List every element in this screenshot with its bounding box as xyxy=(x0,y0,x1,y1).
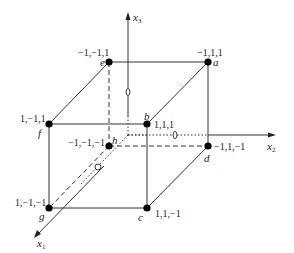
x1-axis-label: x1 xyxy=(37,238,45,251)
x3-marker-icon xyxy=(126,89,130,96)
vertex-f xyxy=(45,120,52,127)
edge-h-g xyxy=(52,146,109,205)
x1-sub: 1 xyxy=(42,243,46,251)
x2-marker-icon xyxy=(173,132,177,139)
vertex-d xyxy=(204,142,211,149)
vertex-b-letter: b xyxy=(144,111,150,122)
vertex-f-letter: f xyxy=(38,128,41,139)
vertex-g-coords: 1,−1,−1 xyxy=(15,198,46,208)
x1-axis xyxy=(38,166,104,234)
vertex-g-letter: g xyxy=(39,211,45,222)
x3-axis-label: x3 xyxy=(133,12,141,25)
vertex-a-letter: a xyxy=(213,57,219,68)
vertex-d-letter: d xyxy=(204,153,210,164)
x2-axis-label: x2 xyxy=(267,141,275,154)
vertex-e xyxy=(105,58,112,65)
x2-sub: 2 xyxy=(272,146,276,154)
vertex-b-coords: 1,1,1 xyxy=(154,120,174,130)
edge-b-a xyxy=(147,62,208,124)
vertex-g xyxy=(45,204,52,211)
x3-sub: 3 xyxy=(138,17,142,25)
vertex-c-letter: c xyxy=(138,212,143,223)
vertex-e-letter: e xyxy=(100,57,105,68)
x3-arrow-icon xyxy=(126,12,131,20)
vertex-h-letter: h xyxy=(112,135,118,146)
vertex-c-coords: 1,1,−1 xyxy=(155,209,181,219)
edge-f-e xyxy=(49,62,109,124)
x2-arrow-icon xyxy=(268,133,276,138)
vertex-c xyxy=(143,204,150,211)
x1-marker-icon xyxy=(95,164,101,170)
vertex-f-coords: 1,−1,1 xyxy=(20,114,46,124)
vertex-h-coords: −1,−1,−1 xyxy=(68,138,105,148)
vertex-a xyxy=(204,58,211,65)
vertex-d-coords: −1,1,−1 xyxy=(214,142,245,152)
edge-c-d xyxy=(147,146,208,208)
